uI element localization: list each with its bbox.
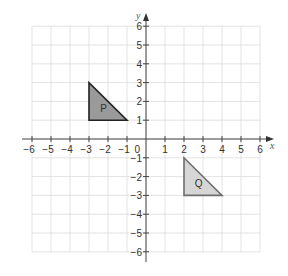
y-tick-label: 5 [136,40,142,51]
y-tick-label: −6 [131,247,143,258]
x-tick-label: 1 [162,144,168,155]
x-tick-label: −3 [80,144,92,155]
x-tick-label: −5 [42,144,54,155]
y-axis-label: y [135,10,141,21]
x-tick-label: −6 [23,144,35,155]
y-tick-label: 2 [136,96,142,107]
y-axis-arrow-icon [143,13,149,21]
x-tick-label: −4 [61,144,73,155]
x-tick-label: 6 [257,144,263,155]
x-tick-label: −1 [118,144,130,155]
x-tick-label: 3 [200,144,206,155]
x-tick-label: 5 [238,144,244,155]
y-tick-label: 1 [136,115,142,126]
y-tick-label: −3 [131,190,143,201]
coordinate-plane: xy PQ −6−5−4−3−2−1123456654321−1−2−3−4−5… [0,0,288,276]
origin-label: 0 [134,144,140,155]
triangle-label-p: P [100,103,107,114]
x-tick-label: 2 [181,144,187,155]
x-tick-label: −2 [99,144,111,155]
y-tick-label: −4 [131,209,143,220]
triangle-label-q: Q [195,178,203,189]
y-tick-label: 3 [136,78,142,89]
y-tick-label: 6 [136,21,142,32]
x-axis-label: x [269,140,275,151]
y-tick-label: −5 [131,228,143,239]
y-tick-label: 4 [136,59,142,70]
axes: xy [22,10,275,262]
y-tick-label: −2 [131,172,143,183]
x-tick-label: 4 [219,144,225,155]
